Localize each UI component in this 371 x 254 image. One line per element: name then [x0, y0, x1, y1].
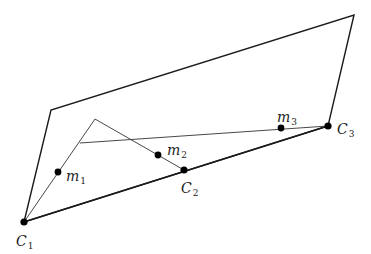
label-C2: C2 [181, 180, 198, 198]
camera-point-C1 [20, 218, 27, 225]
label-C1: C1 [16, 233, 33, 251]
image-point-m1 [55, 169, 62, 176]
label-m3: m3 [277, 109, 297, 127]
camera-point-C3 [324, 122, 331, 129]
label-C3: C3 [337, 121, 355, 139]
camera-centers: C1C2C3 [16, 121, 355, 251]
ray-3 [80, 126, 328, 143]
epipolar-plane-diagram: C1C2C3 m1m2m3 [0, 0, 371, 254]
image-point-m3 [278, 125, 285, 132]
camera-point-C2 [180, 166, 187, 173]
label-m2: m2 [167, 142, 187, 160]
label-m1: m1 [66, 168, 86, 186]
image-point-m2 [155, 152, 162, 159]
